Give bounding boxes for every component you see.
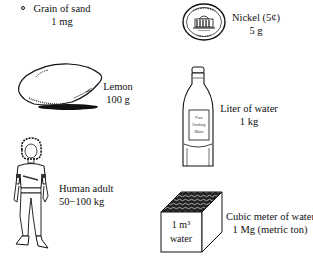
water-bottle-icon: Pure Drinking Water	[181, 66, 215, 170]
human-mass: 50−100 kg	[59, 195, 123, 208]
human-label: Human adult 50−100 kg	[59, 182, 123, 208]
lemon-icon	[14, 62, 104, 112]
human-name: Human adult	[59, 182, 123, 195]
nickel-label: Nickel (5¢) 5 g	[228, 11, 284, 37]
lemon-name: Lemon	[100, 80, 136, 93]
sand-grain-icon	[20, 5, 26, 11]
nickel-coin-icon	[181, 2, 227, 42]
cube-mass: 1 Mg (metric ton)	[226, 223, 313, 236]
cube-label: Cubic meter of water 1 Mg (metric ton)	[226, 210, 313, 236]
liter-mass: 1 kg	[219, 115, 279, 128]
liter-name: Liter of water	[219, 102, 279, 115]
lemon-mass: 100 g	[100, 93, 136, 106]
bottle-label-line-2: Drinking	[193, 123, 206, 127]
nickel-name: Nickel (5¢)	[228, 11, 284, 24]
sand-label: Grain of sand 1 mg	[30, 2, 94, 28]
cube-label-volume: 1 m³	[172, 219, 190, 230]
liter-label: Liter of water 1 kg	[219, 102, 279, 128]
lemon-label: Lemon 100 g	[100, 80, 136, 106]
bottle-label-line-1: Pure	[195, 116, 202, 120]
cube-name: Cubic meter of water	[226, 210, 313, 223]
bottle-label-line-3: Water	[194, 130, 204, 134]
sand-name: Grain of sand	[30, 2, 94, 15]
sand-mass: 1 mg	[30, 15, 94, 28]
cube-label-water: water	[170, 233, 193, 244]
human-figure-icon	[8, 136, 54, 254]
water-cube-icon: 1 m³ water	[160, 190, 224, 254]
nickel-mass: 5 g	[228, 24, 284, 37]
